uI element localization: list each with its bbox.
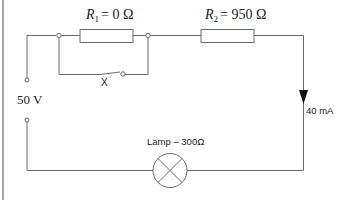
lamp-label: Lamp – 300Ω [147, 136, 204, 147]
wire-right [187, 36, 304, 171]
resistor-r1 [80, 30, 133, 43]
switch-label: X [101, 77, 108, 88]
switch-branch-right [125, 38, 148, 75]
wire-left-lower [27, 122, 153, 171]
r1-subscript: 1 [95, 14, 100, 24]
resistor-r2-label: R2= 950 Ω [204, 7, 266, 24]
r2-subscript: 2 [214, 14, 219, 24]
source-terminal-positive [25, 78, 29, 82]
junction-node-right [146, 33, 150, 37]
r2-value: = 950 Ω [220, 7, 266, 22]
r1-symbol: R [85, 7, 95, 22]
resistor-r2 [201, 30, 254, 43]
junction-node-left [57, 33, 61, 37]
wire-left-upper [27, 36, 56, 79]
switch-branch-left [59, 38, 120, 75]
switch-x[interactable] [121, 72, 125, 76]
resistor-r1-label: R1= 0 Ω [85, 7, 133, 24]
current-arrow-icon [299, 90, 308, 104]
source-terminal-negative [25, 118, 29, 122]
current-label: 40 mA [306, 105, 334, 116]
source-voltage-label: 50 V [17, 92, 43, 107]
circuit-diagram: 50 V R1= 0 Ω X R2= 950 Ω 40 mA Lamp – 30… [0, 0, 341, 200]
r1-value: = 0 Ω [101, 7, 133, 22]
r2-symbol: R [204, 7, 214, 22]
